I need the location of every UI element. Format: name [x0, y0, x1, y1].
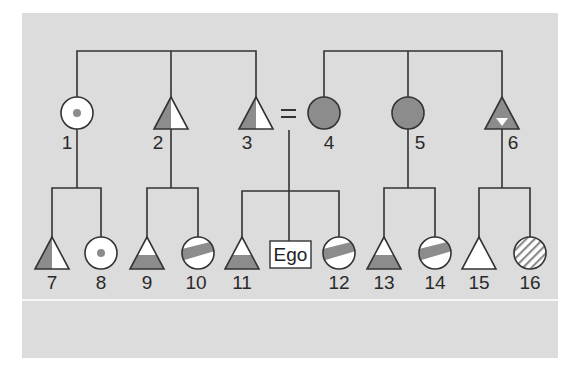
- person-4[interactable]: 4: [308, 97, 340, 153]
- person-ego[interactable]: Ego: [270, 241, 311, 268]
- svg-text:14: 14: [424, 272, 446, 293]
- person-9[interactable]: 9: [130, 237, 164, 293]
- svg-text:12: 12: [328, 272, 349, 293]
- person-10[interactable]: 10: [178, 237, 218, 293]
- person-12[interactable]: 12: [319, 237, 359, 293]
- person-14[interactable]: 14: [415, 237, 455, 293]
- kinship-diagram: 1 2 3 4 5 6 7 8: [0, 0, 568, 372]
- person-15[interactable]: 15: [462, 237, 496, 293]
- person-13[interactable]: 13: [367, 237, 401, 293]
- marriage-symbol: [281, 109, 296, 118]
- svg-text:1: 1: [62, 132, 73, 153]
- svg-text:2: 2: [153, 132, 164, 153]
- svg-text:9: 9: [142, 272, 153, 293]
- svg-text:Ego: Ego: [274, 244, 308, 265]
- person-8[interactable]: 8: [85, 237, 117, 293]
- svg-text:16: 16: [519, 272, 540, 293]
- svg-text:8: 8: [96, 272, 107, 293]
- person-3[interactable]: 3: [239, 97, 273, 153]
- svg-text:7: 7: [47, 272, 58, 293]
- svg-text:3: 3: [242, 132, 253, 153]
- kinship-lines: [52, 51, 530, 241]
- svg-text:4: 4: [324, 132, 335, 153]
- person-11[interactable]: 11: [225, 237, 259, 293]
- svg-text:6: 6: [508, 132, 519, 153]
- svg-text:10: 10: [185, 272, 206, 293]
- svg-text:15: 15: [468, 272, 489, 293]
- svg-text:5: 5: [415, 132, 426, 153]
- person-16[interactable]: 16: [514, 237, 546, 293]
- svg-text:11: 11: [232, 272, 252, 293]
- person-7[interactable]: 7: [35, 237, 69, 293]
- svg-text:13: 13: [373, 272, 394, 293]
